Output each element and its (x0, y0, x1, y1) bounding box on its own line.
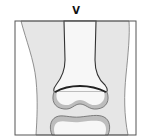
lower-bone (54, 121, 106, 135)
anatomy-diagram (0, 0, 142, 140)
